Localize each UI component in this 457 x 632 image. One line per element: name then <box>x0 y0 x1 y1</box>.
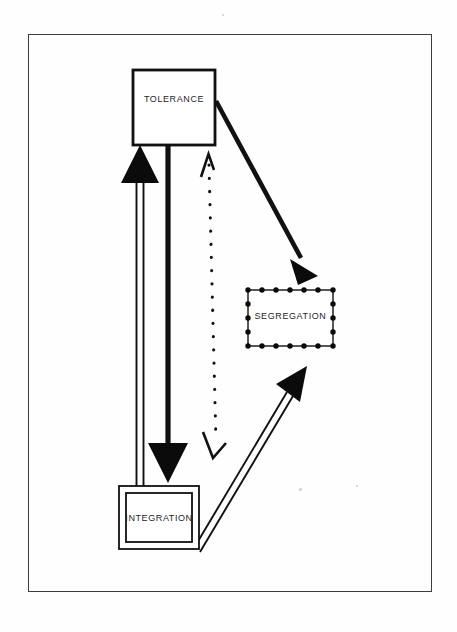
scan-speck <box>222 14 224 16</box>
node-label-integration: INTEGRATION <box>119 513 199 523</box>
edge-integration-to-segregation <box>194 366 307 552</box>
edge-tolerance-to-segregation <box>216 101 318 285</box>
node-label-segregation: SEGREGATION <box>248 311 333 321</box>
diagram-canvas <box>0 0 457 632</box>
node-label-tolerance: TOLERANCE <box>133 94 215 104</box>
scan-speck <box>356 485 358 487</box>
edge-integration-to-tolerance <box>121 145 159 540</box>
node-tolerance[interactable] <box>133 70 215 145</box>
edge-tolerance-integration-dotted <box>201 154 226 458</box>
edge-tolerance-to-integration <box>148 145 188 483</box>
diagram-page: TOLERANCE SEGREGATION INTEGRATION <box>0 0 457 632</box>
scan-speck <box>299 488 302 491</box>
